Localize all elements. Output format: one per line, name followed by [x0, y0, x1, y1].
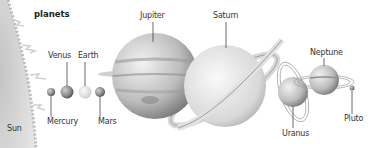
label-jupiter: Jupiter — [140, 11, 165, 20]
label-neptune: Neptune — [310, 48, 343, 57]
pluto — [350, 86, 355, 91]
solar-system-diagram: planets Sun Venus Earth Mercury Mars Jup… — [0, 0, 368, 148]
label-sun: Sun — [7, 124, 22, 133]
label-pluto: Pluto — [344, 114, 363, 123]
label-uranus: Uranus — [282, 129, 309, 138]
venus — [61, 86, 74, 99]
diagram-title: planets — [34, 9, 70, 19]
label-saturn: Saturn — [213, 11, 238, 20]
mars — [95, 87, 105, 97]
label-mercury: Mercury — [47, 117, 78, 126]
jupiter — [112, 33, 198, 119]
label-earth: Earth — [78, 51, 98, 60]
mercury — [47, 88, 55, 96]
label-venus: Venus — [48, 51, 71, 60]
earth — [79, 86, 92, 99]
label-mars: Mars — [98, 117, 116, 126]
